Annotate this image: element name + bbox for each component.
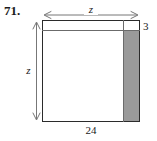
problem-number: 71. — [4, 3, 20, 19]
figure-canvas: 71. z z 3 24 — [0, 0, 157, 141]
bottom-width-label: 24 — [42, 124, 140, 136]
top-strip-divider — [42, 30, 140, 31]
left-height-label: z — [22, 64, 35, 76]
right-strip-width-label: 3 — [143, 20, 149, 32]
shaded-right-strip — [124, 31, 139, 121]
right-strip-divider — [123, 20, 124, 122]
top-width-label: z — [84, 3, 98, 15]
